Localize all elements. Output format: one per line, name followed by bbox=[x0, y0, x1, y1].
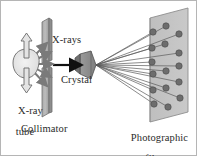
diffraction-spot bbox=[149, 59, 155, 65]
label-xrays: X-rays bbox=[52, 35, 81, 46]
label-film-line2: film bbox=[116, 154, 192, 156]
diffraction-spot bbox=[163, 68, 169, 74]
diffraction-spot bbox=[165, 104, 171, 110]
diffraction-spot bbox=[150, 71, 156, 77]
diffraction-spot bbox=[176, 79, 182, 85]
diffraction-spot bbox=[163, 85, 169, 91]
diffraction-spot bbox=[177, 95, 183, 101]
diffraction-spot bbox=[151, 101, 157, 107]
label-xray-tube-line1: X-ray bbox=[18, 105, 43, 116]
diffraction-spot bbox=[162, 41, 168, 47]
diffraction-spot bbox=[176, 31, 182, 37]
diffraction-spot bbox=[150, 29, 156, 35]
diffraction-spot bbox=[176, 63, 182, 69]
label-crystal: Crystal bbox=[61, 75, 92, 86]
label-film-line1: Photographic bbox=[131, 132, 188, 143]
xray-diffraction-figure: X-rays Crystal X-ray tube Collimator Pho… bbox=[0, 0, 197, 156]
diffraction-spot bbox=[149, 45, 155, 51]
label-photographic-film: Photographic film bbox=[116, 122, 192, 156]
diffraction-spot bbox=[163, 23, 169, 29]
diffraction-spot bbox=[150, 87, 156, 93]
label-collimator: Collimator bbox=[21, 124, 68, 135]
diffraction-spot bbox=[176, 50, 182, 56]
